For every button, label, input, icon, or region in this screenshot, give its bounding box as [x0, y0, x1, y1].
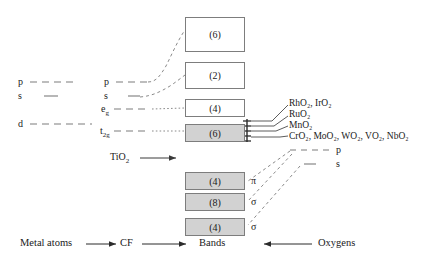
cf-level-s: s — [104, 91, 108, 101]
cf-level-t2g: t2g — [100, 126, 110, 136]
connector-eg-to-band4 — [152, 108, 185, 109]
tio2-subscript: 2 — [126, 157, 130, 165]
symmetry-label-sigma-4: σ — [251, 222, 256, 232]
symmetry-label-sigma-8: σ — [251, 197, 256, 207]
oxygen-level-p: p — [336, 145, 341, 155]
band-box-8-sigma: (8) — [185, 193, 245, 211]
symmetry-label-pi: π — [251, 176, 256, 186]
axis-cf: CF — [120, 238, 133, 249]
band-box-4-pi: (4) — [185, 172, 245, 190]
metal-level-d: d — [18, 119, 23, 129]
compound-row-ruo2: RuO₂ — [289, 110, 310, 120]
cf-level-t2g-subscript: 2g — [103, 131, 110, 139]
metal-level-s: s — [18, 91, 22, 101]
axis-arrow-2-head — [179, 241, 186, 246]
axis-oxygens: Oxygens — [318, 238, 355, 249]
leader-line-rho2-iro2 — [251, 105, 288, 121]
band-box-4-sigma: (4) — [185, 218, 245, 236]
axis-metal-atoms: Metal atoms — [20, 238, 72, 249]
compound-row-mno2: MnO₂ — [289, 121, 312, 131]
band-box-6-t2g: (6) — [185, 124, 245, 142]
band-box-2: (2) — [185, 62, 245, 89]
axis-arrow-1-head — [109, 241, 116, 246]
axis-bands: Bands — [199, 238, 225, 249]
compound-row-cro2-moo2-wo2-vo2-nbo2: CrO₂, MoO₂, WO₂, VO₂, NbO₂ — [289, 132, 409, 142]
connector-p-to-band6 — [148, 30, 185, 82]
tio2-arrow-head — [169, 155, 176, 161]
diagram-canvas: p s d p s eg t2g TiO2 (6) (2) (4) (6) (4… — [0, 0, 448, 264]
leader-line-cro2-group — [251, 136, 288, 137]
connector-s-to-band2 — [140, 75, 185, 97]
cf-level-p: p — [104, 77, 109, 87]
compound-row-rho2-iro2: RhO₂, IrO₂ — [289, 99, 332, 109]
cf-level-eg-subscript: g — [105, 109, 109, 117]
oxygen-level-s: s — [336, 159, 340, 169]
tio2-annotation: TiO2 — [110, 152, 129, 162]
band-box-6-upper: (6) — [185, 17, 245, 52]
cf-level-eg: eg — [101, 104, 109, 114]
band-box-4-eg: (4) — [185, 99, 245, 117]
metal-level-p: p — [18, 77, 23, 87]
axis-arrow-3-head — [264, 241, 271, 246]
leader-line-mno2 — [251, 126, 288, 131]
